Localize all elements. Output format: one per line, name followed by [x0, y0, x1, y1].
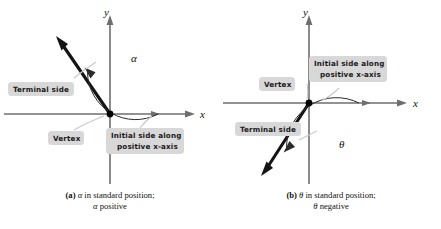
- initial-side-arrowhead-b: [362, 100, 371, 106]
- y-axis-b: [306, 15, 313, 184]
- leader-vertex-b: [307, 84, 308, 99]
- x-axis-arrowhead-b: [397, 100, 407, 107]
- leader-initial-side-a: [140, 116, 152, 128]
- caption-a-line2: positive: [98, 201, 127, 211]
- callout-vertex-a-text: Vertex: [53, 134, 81, 143]
- callout-vertex-b: Vertex: [259, 77, 295, 91]
- caption-a-line1: in standard position;: [82, 190, 154, 200]
- callout-initial-side-a-line2: positive x-axis: [117, 142, 178, 151]
- y-axis-a: [107, 15, 114, 184]
- caption-b-line1: in standard position;: [303, 190, 375, 200]
- vertex-dot-a: [107, 111, 114, 118]
- x-axis-a: [4, 111, 195, 118]
- y-axis-label-a: y: [103, 6, 109, 18]
- callout-initial-side-b-line2: positive x-axis: [320, 70, 381, 79]
- callout-initial-side-b: Initial side along positive x-axis: [309, 56, 387, 82]
- callout-vertex-a: Vertex: [48, 131, 84, 145]
- diagram-b: y x θ Vertex: [221, 0, 441, 190]
- y-axis-label-b: y: [302, 6, 308, 18]
- x-axis-arrowhead-a: [185, 111, 195, 118]
- angle-arc-arrowhead-b: [284, 141, 296, 153]
- figure-container: y x α Terminal side: [0, 0, 441, 229]
- angle-symbol-alpha: α: [131, 52, 137, 64]
- callout-initial-side-b-line1: Initial side along: [314, 59, 384, 68]
- terminal-ray-b: [261, 103, 309, 176]
- callout-terminal-side-a-text: Terminal side: [13, 85, 69, 94]
- caption-b-line2: negative: [317, 201, 348, 211]
- leader-vertex-a: [74, 116, 104, 130]
- leader-initial-side-b: [321, 88, 339, 101]
- caption-b: (b) θ in standard position; θ negative: [221, 190, 441, 213]
- caption-a: (a) α in standard position; α positive: [0, 190, 220, 213]
- caption-a-tag: (a): [65, 190, 75, 200]
- vertex-dot-b: [306, 100, 313, 107]
- callout-initial-side-a-line1: Initial side along: [111, 131, 181, 140]
- diagram-a: y x α Terminal side: [0, 0, 220, 190]
- callout-terminal-side-b: Terminal side: [235, 122, 301, 136]
- leader-terminal-side-b: [299, 131, 317, 140]
- callout-terminal-side-a: Terminal side: [8, 82, 74, 96]
- callout-initial-side-a: Initial side along positive x-axis: [106, 128, 184, 154]
- caption-b-tag: (b): [286, 190, 297, 200]
- angle-symbol-theta: θ: [339, 138, 345, 150]
- callout-terminal-side-b-text: Terminal side: [240, 125, 296, 134]
- terminal-ray-a: [56, 36, 110, 114]
- callout-vertex-b-text: Vertex: [264, 80, 292, 89]
- x-axis-label-b: x: [412, 97, 418, 109]
- x-axis-label-a: x: [199, 108, 205, 120]
